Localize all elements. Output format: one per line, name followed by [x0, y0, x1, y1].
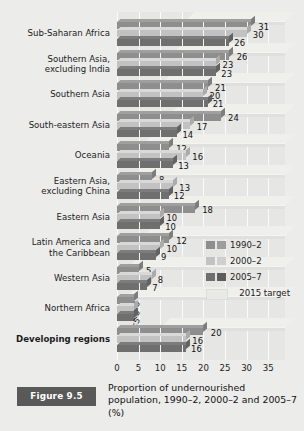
bar-top-face: [117, 111, 224, 114]
legend-swatch-b-0: [217, 241, 226, 249]
bar-face: [117, 161, 173, 168]
bar-1-2: [117, 69, 216, 76]
bar-value-label-4-2: 13: [178, 162, 189, 170]
bar-value-label-7-0: 12: [176, 237, 187, 245]
legend-swatch-a-0: [206, 241, 215, 249]
bar-top-face: [117, 127, 181, 130]
x-tick-5: 5: [131, 362, 147, 374]
bar-5-2: [117, 192, 169, 199]
bar-gridline: [160, 161, 161, 168]
bar-gridline: [203, 100, 204, 107]
bar-gridline: [139, 192, 140, 199]
bar-top-face: [117, 141, 172, 144]
bar-10-2: [117, 345, 186, 352]
bar-gridline: [139, 39, 140, 46]
bar-value-label-0-1: 30: [253, 31, 264, 39]
legend-item-0: 1990–2: [206, 238, 302, 254]
bar-top-face: [117, 97, 211, 100]
bar-top-face: [117, 50, 233, 53]
bar-value-label-4-1: 16: [192, 153, 203, 161]
bar-gridline: [160, 130, 161, 137]
bar-top-face: [117, 58, 220, 61]
legend-item-2: 2005–7: [206, 270, 302, 286]
bar-top-face: [117, 280, 151, 283]
bar-value-label-6-0: 18: [202, 206, 213, 214]
bar-gridline: [160, 192, 161, 199]
bar-gridline: [160, 345, 161, 352]
bar-face: [117, 283, 147, 290]
bar-gridline: [225, 53, 226, 60]
row-label-6: Eastern Asia: [0, 212, 110, 222]
bar-8-2: [117, 283, 147, 290]
bar-gridline: [182, 100, 183, 107]
bar-top-face: [117, 27, 250, 30]
row-label-2: Southern Asia: [0, 89, 110, 99]
bar-value-label-1-2: 23: [221, 70, 232, 78]
bar-top-face: [117, 211, 164, 214]
legend-label-2: 2005–7: [230, 272, 262, 283]
bar-value-label-3-0: 24: [228, 114, 239, 122]
figure-caption: Figure 9.5 Proportion of undernourished …: [0, 382, 304, 431]
row-label-7: Latin America and the Caribbean: [0, 237, 110, 258]
bar-value-label-5-2: 12: [174, 192, 185, 200]
x-tick-0: 0: [109, 362, 125, 374]
bar-top-face: [117, 66, 220, 69]
bar-gridline: [203, 114, 204, 121]
row-label-5: Eastern Asia, excluding China: [0, 176, 110, 197]
bar-top-face: [117, 219, 164, 222]
bar-gridline: [139, 253, 140, 260]
bar-top-face: [117, 36, 233, 39]
chart-plot-area: Sub-Saharan Africa313026Southern Asia, e…: [0, 0, 304, 360]
bar-gridline: [182, 122, 183, 129]
x-tick-35: 35: [260, 362, 276, 374]
bar-top-face: [117, 80, 211, 83]
bar-gridline: [203, 69, 204, 76]
bar-face: [117, 69, 216, 76]
bar-7-2: [117, 253, 156, 260]
bar-gridline: [225, 39, 226, 46]
bar-gridline: [182, 153, 183, 160]
row-label-0: Sub-Saharan Africa: [0, 28, 110, 38]
bar-top-face: [117, 172, 155, 175]
gridline-30: [247, 12, 248, 360]
legend-label-1: 2000–2: [230, 256, 262, 267]
legend-swatch-b-2: [217, 273, 226, 281]
bar-top-face: [117, 333, 190, 336]
bar-value-label-2-2: 21: [213, 100, 224, 108]
bar-gridline: [139, 345, 140, 352]
legend-swatch-b-1: [217, 257, 226, 265]
bar-gridline: [160, 69, 161, 76]
bar-gridline: [182, 206, 183, 213]
x-tick-10: 10: [152, 362, 168, 374]
bar-top-face: [117, 342, 190, 345]
bar-value-label-7-2: 9: [161, 253, 166, 261]
legend-item-3: 2015 target: [206, 286, 302, 302]
bar-top-face: [117, 325, 207, 328]
bar-value-label-8-2: 7: [152, 284, 157, 292]
row-label-1: Southern Asia, excluding India: [0, 54, 110, 75]
bar-face: [117, 100, 208, 107]
bar-gridline: [139, 161, 140, 168]
bar-top-face: [117, 272, 155, 275]
bar-top-face: [117, 203, 198, 206]
row-label-3: South-eastern Asia: [0, 120, 110, 130]
bar-6-2: [117, 222, 160, 229]
bar-gridline: [139, 283, 140, 290]
bar-value-label-1-0: 26: [237, 53, 248, 61]
bar-gridline: [139, 130, 140, 137]
figure-number-badge: Figure 9.5: [17, 387, 96, 406]
bar-gridline: [160, 100, 161, 107]
chart-legend: 1990–22000–22005–72015 target: [206, 238, 302, 302]
bar-top-face: [117, 89, 207, 92]
bar-gridline: [182, 345, 183, 352]
bar-face: [117, 130, 177, 137]
bar-4-2: [117, 161, 173, 168]
gridline-35: [268, 12, 269, 360]
bar-top-face: [117, 150, 190, 153]
row-label-10: Developing regions: [0, 334, 110, 344]
legend-swatch-a-2: [206, 273, 215, 281]
legend-label-0: 1990–2: [230, 240, 262, 251]
bar-gridline: [203, 39, 204, 46]
bar-value-label-7-1: 10: [166, 245, 177, 253]
bar-value-label-6-2: 10: [165, 223, 176, 231]
